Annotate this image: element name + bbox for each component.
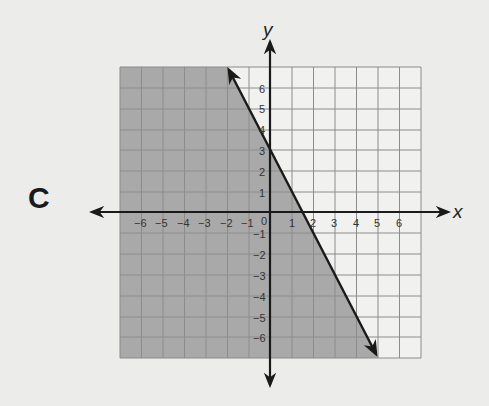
y-axis-label: y [261,19,274,40]
svg-text:−1: −1 [253,228,266,240]
svg-text:4: 4 [259,124,265,136]
x-axis-label: x [452,201,464,222]
svg-text:−4: −4 [177,217,190,229]
svg-text:−2: −2 [220,217,233,229]
svg-text:0: 0 [261,215,267,227]
svg-text:2: 2 [259,166,265,178]
svg-text:6: 6 [396,217,402,229]
svg-text:3: 3 [331,217,337,229]
svg-text:−3: −3 [198,217,211,229]
svg-text:−4: −4 [253,291,266,303]
svg-text:1: 1 [259,187,265,199]
svg-text:2: 2 [310,217,316,229]
svg-text:−2: −2 [253,249,266,261]
svg-text:−6: −6 [134,217,147,229]
svg-text:−5: −5 [155,217,168,229]
svg-text:5: 5 [259,103,265,115]
svg-text:1: 1 [289,217,295,229]
svg-text:4: 4 [353,217,359,229]
svg-text:−6: −6 [253,332,266,344]
svg-text:−3: −3 [253,270,266,282]
svg-text:5: 5 [374,217,380,229]
svg-text:6: 6 [259,83,265,95]
svg-text:3: 3 [259,145,265,157]
svg-text:−5: −5 [253,312,266,324]
coordinate-plane: y x −6 −5 −4 −3 −2 −1 0 1 2 3 4 5 6 6 5 … [0,0,489,406]
svg-text:−1: −1 [241,217,254,229]
